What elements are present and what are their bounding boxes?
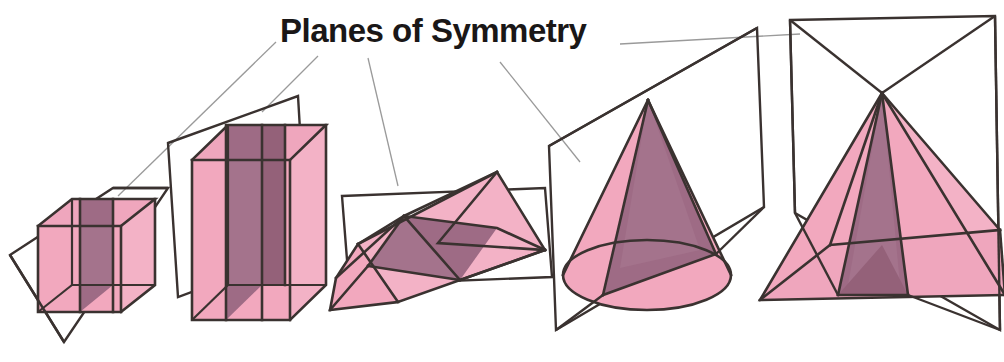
pyramid-plane-edge-upper-left	[790, 20, 882, 93]
leader-to-prism-plane-icon	[368, 58, 398, 186]
pyramid-plane-edge-lower-right	[908, 295, 1000, 330]
cuboid-cross-section-side	[262, 125, 285, 285]
leader-to-cone-plane-icon	[500, 62, 580, 162]
leader-to-cuboid-plane-icon	[262, 56, 318, 112]
shape-square-pyramid	[760, 16, 1004, 330]
cone-plane-edge-bottom-left	[556, 295, 603, 330]
shape-cone	[549, 28, 764, 330]
shape-triangular-prism	[330, 172, 552, 310]
pyramid-plane-edge-left	[790, 20, 795, 213]
leader-to-pyramid-plane-icon	[620, 34, 800, 44]
shape-cuboid	[168, 96, 326, 320]
figure-canvas: .lt { fill: #f2a8be; } .lt2 { fill: #efa…	[0, 0, 1004, 362]
planes-of-symmetry-figure: .lt { fill: #f2a8be; } .lt2 { fill: #efa…	[0, 0, 1004, 362]
pyramid-plane-edge-upper-right	[882, 16, 995, 93]
cube-cross-section-core	[80, 226, 113, 285]
cuboid-cross-section-core	[226, 160, 262, 285]
shape-cube	[10, 188, 168, 342]
page-title: Planes of Symmetry	[280, 14, 586, 47]
